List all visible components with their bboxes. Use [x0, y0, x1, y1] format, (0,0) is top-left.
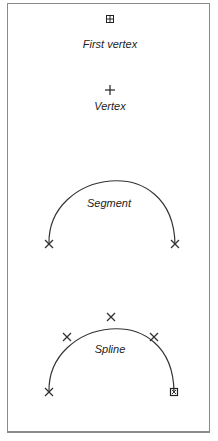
- first-vertex-label: First vertex: [83, 38, 137, 50]
- segment-label: Segment: [87, 197, 131, 209]
- segment-arc-icon: [45, 181, 179, 248]
- first-vertex-icon: [107, 16, 114, 23]
- vertex-plus-icon: [105, 85, 115, 95]
- legend-artwork: [0, 0, 218, 441]
- spline-label: Spline: [95, 343, 126, 355]
- vertex-label: Vertex: [94, 100, 125, 112]
